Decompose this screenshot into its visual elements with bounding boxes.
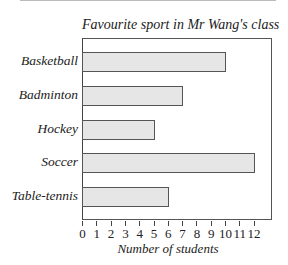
x-tick-label: 10 — [219, 226, 232, 242]
category-label: Table-tennis — [12, 188, 78, 204]
x-tick-label: 2 — [108, 226, 115, 242]
bar-table-tennis — [82, 187, 169, 207]
x-axis-label: Number of students — [82, 241, 254, 257]
x-tick-label: 7 — [179, 226, 186, 242]
category-label: Badminton — [19, 87, 78, 103]
x-tick-label: 12 — [248, 226, 261, 242]
x-tick-label: 0 — [79, 226, 86, 242]
bar-basketball — [82, 52, 226, 72]
x-tick-label: 9 — [208, 226, 215, 242]
x-tick-label: 4 — [136, 226, 143, 242]
category-label: Hockey — [38, 121, 78, 137]
x-tick-label: 1 — [94, 226, 101, 242]
bar-hockey — [82, 120, 155, 140]
bar-badminton — [82, 86, 183, 106]
chart-title: Favourite sport in Mr Wang's class — [82, 17, 275, 33]
x-tick-label: 6 — [165, 226, 172, 242]
x-tick-label: 11 — [234, 226, 247, 242]
category-label: Basketball — [21, 53, 78, 69]
category-label: Soccer — [41, 154, 78, 170]
top-border-line — [20, 0, 276, 1]
x-tick-label: 8 — [194, 226, 201, 242]
x-tick-label: 5 — [151, 226, 158, 242]
bar-soccer — [82, 153, 255, 173]
x-tick-label: 3 — [122, 226, 129, 242]
